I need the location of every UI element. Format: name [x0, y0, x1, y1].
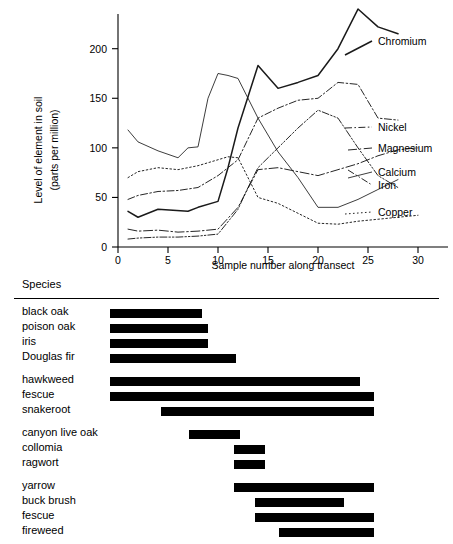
species-label: iris	[22, 335, 36, 347]
legend-leader-magnesium	[348, 148, 372, 150]
chart-svg: 050100150200 051015202530 ChromiumNickel…	[0, 0, 453, 272]
legend-leader-chromium	[345, 41, 372, 55]
species-range-bar	[279, 528, 374, 537]
species-range-bar	[110, 377, 360, 386]
legend-leader-lines	[345, 41, 372, 214]
species-label: black oak	[22, 305, 68, 317]
legend-label-iron: Iron	[378, 179, 396, 191]
y-axis-title-line2: (parts per million)	[48, 109, 60, 190]
legend-label-calcium: Calcium	[378, 166, 416, 178]
x-tick-label: 0	[115, 254, 121, 266]
species-label: fescue	[22, 509, 54, 521]
species-label: hawkweed	[22, 373, 74, 385]
species-label: canyon live oak	[22, 426, 98, 438]
species-range-bar	[161, 407, 374, 416]
series-line-chromium	[128, 9, 398, 217]
species-range-bar	[110, 354, 236, 363]
species-header-divider	[14, 298, 439, 299]
species-range-bar	[110, 339, 208, 348]
y-axis-title: Level of element in soil (parts per mill…	[32, 97, 60, 204]
x-axis-title: Sample number along transect	[212, 259, 355, 271]
species-range-bar	[234, 460, 265, 469]
y-axis-ticks: 050100150200	[89, 43, 118, 253]
y-tick-label: 100	[89, 142, 107, 154]
species-label: ragwort	[22, 456, 59, 468]
species-range-bar	[255, 498, 345, 507]
y-tick-label: 150	[89, 92, 107, 104]
species-header-label: Species	[22, 278, 61, 290]
y-tick-label: 0	[101, 241, 107, 253]
y-axis-title-line1: Level of element in soil	[32, 97, 44, 204]
x-tick-label: 5	[165, 254, 171, 266]
species-range-bar	[110, 324, 208, 333]
species-label: snakeroot	[22, 403, 70, 415]
species-range-panel: Species black oakpoison oakirisDouglas f…	[0, 272, 453, 544]
legend-label-copper: Copper	[378, 206, 413, 218]
x-tick-label: 30	[412, 254, 424, 266]
species-label: yarrow	[22, 479, 55, 491]
species-label: collomia	[22, 441, 62, 453]
species-label: fireweed	[22, 524, 64, 536]
legend-label-chromium: Chromium	[378, 35, 427, 47]
species-range-bar	[234, 483, 374, 492]
species-range-bar	[110, 309, 202, 318]
legend-label-magnesium: Magnesium	[378, 142, 433, 154]
species-label: poison oak	[22, 320, 75, 332]
species-range-bar	[110, 392, 374, 401]
legend-label-nickel: Nickel	[378, 121, 407, 133]
chart-series-group	[128, 9, 418, 239]
legend-leader-copper	[345, 212, 372, 214]
y-tick-label: 50	[95, 191, 107, 203]
species-range-bar	[234, 445, 265, 454]
legend-leader-nickel	[345, 127, 372, 128]
soil-element-line-chart: 050100150200 051015202530 ChromiumNickel…	[0, 0, 453, 272]
soil-and-species-figure: 050100150200 051015202530 ChromiumNickel…	[0, 0, 453, 544]
y-tick-label: 200	[89, 43, 107, 55]
species-range-bar	[255, 513, 374, 522]
species-label: fescue	[22, 388, 54, 400]
chart-legend: ChromiumNickelMagnesiumCalciumIronCopper	[378, 35, 433, 218]
species-range-bar	[189, 430, 240, 439]
chart-axes: 050100150200 051015202530	[89, 14, 448, 266]
series-line-iron	[128, 110, 398, 239]
species-label: Douglas fir	[22, 350, 75, 362]
series-line-calcium	[128, 73, 398, 207]
series-line-nickel	[128, 82, 398, 199]
x-tick-label: 25	[362, 254, 374, 266]
species-label: buck brush	[22, 494, 76, 506]
